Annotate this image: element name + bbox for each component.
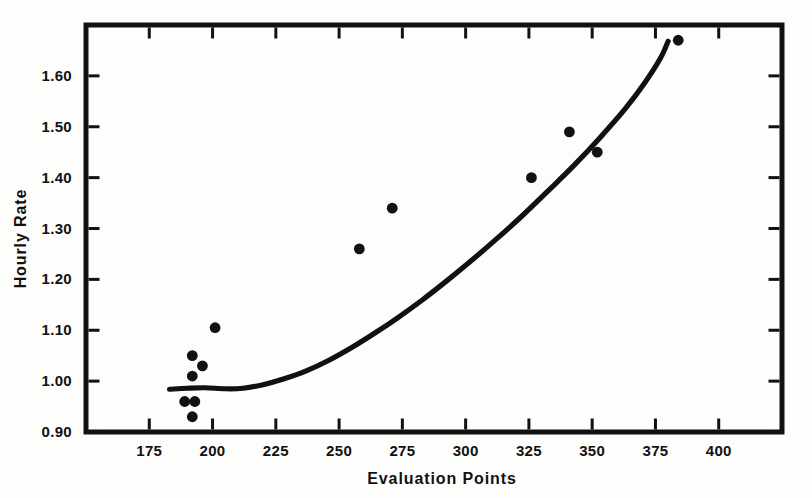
y-tick-label: 0.90 (42, 423, 72, 440)
x-tick-label: 400 (706, 442, 732, 459)
scatter-plot-canvas: 175200225250275300325350375400 0.901.001… (0, 0, 812, 498)
data-point (564, 126, 575, 137)
y-tick-label: 1.40 (42, 169, 72, 186)
y-tick-label: 1.20 (42, 270, 72, 287)
y-tick-label: 1.00 (42, 372, 72, 389)
data-point (179, 396, 190, 407)
x-tick-label: 325 (516, 442, 542, 459)
y-axis-tick-labels: 0.901.001.101.201.301.401.501.60 (42, 67, 72, 440)
x-axis-title: Evaluation Points (367, 470, 517, 487)
x-tick-label: 175 (136, 442, 162, 459)
x-tick-label: 200 (200, 442, 226, 459)
x-tick-label: 375 (642, 442, 668, 459)
x-axis-tick-labels: 175200225250275300325350375400 (136, 442, 731, 459)
data-point (387, 203, 398, 214)
data-point (526, 172, 537, 183)
data-point (187, 411, 198, 422)
x-tick-label: 225 (263, 442, 289, 459)
data-point (592, 147, 603, 158)
y-tick-label: 1.60 (42, 67, 72, 84)
data-point (354, 243, 365, 254)
x-tick-label: 250 (326, 442, 352, 459)
data-point (673, 35, 684, 46)
x-tick-label: 350 (579, 442, 605, 459)
data-points (179, 35, 683, 422)
fitted-curve (170, 41, 669, 389)
y-axis-title: Hourly Rate (12, 189, 29, 289)
data-point (197, 360, 208, 371)
data-point (189, 396, 200, 407)
fitted-curve-path (170, 41, 669, 389)
chart-figure: 175200225250275300325350375400 0.901.001… (0, 0, 812, 498)
data-point (187, 371, 198, 382)
data-point (187, 350, 198, 361)
x-tick-label: 300 (453, 442, 479, 459)
y-tick-label: 1.10 (42, 321, 72, 338)
y-tick-label: 1.50 (42, 118, 72, 135)
data-point (210, 322, 221, 333)
plot-frame (86, 25, 782, 432)
y-tick-label: 1.30 (42, 220, 72, 237)
x-tick-label: 275 (389, 442, 415, 459)
